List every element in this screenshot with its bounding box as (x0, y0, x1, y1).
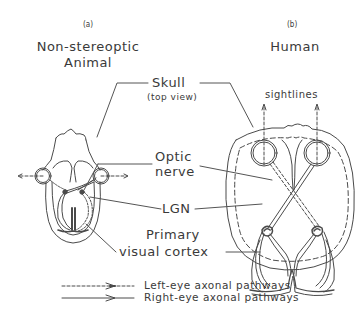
animal-cortex-pathways (58, 192, 93, 232)
label-cortex-line1: Primary (146, 227, 200, 242)
human-skull (226, 124, 355, 270)
legend-line-dashed (62, 283, 134, 289)
label-nerve: nerve (155, 164, 195, 179)
label-sightlines: sightlines (265, 89, 318, 100)
legend-line-solid (62, 295, 134, 301)
legend-right-eye: Right-eye axonal pathways (144, 291, 299, 303)
panel-a-title: Non-stereoptic Animal (28, 39, 148, 71)
panel-b-title: Human (255, 39, 335, 55)
label-skull: Skull (152, 75, 185, 90)
label-optic: Optic (155, 149, 192, 164)
label-skull-sub: (top view) (147, 92, 197, 102)
panel-b-tag: (b) (287, 19, 297, 29)
label-cortex-line2: visual cortex (119, 244, 209, 259)
panel-a-tag: (a) (83, 19, 93, 29)
human-eyes (251, 140, 330, 166)
panel-a-title-line2: Animal (28, 55, 148, 71)
panel-a-title-line1: Non-stereoptic (28, 39, 148, 55)
label-lgn: LGN (162, 201, 191, 216)
legend-left-eye: Left-eye axonal pathways (144, 279, 291, 291)
human-optic-nerves (268, 162, 319, 230)
